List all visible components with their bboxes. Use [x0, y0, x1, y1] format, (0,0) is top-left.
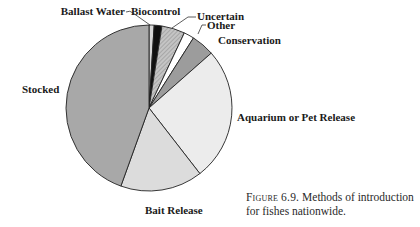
- figure-number: Figure 6.9.: [246, 191, 299, 203]
- figure-caption: Figure 6.9. Methods of introduction for …: [246, 190, 420, 218]
- label-conservation: Conservation: [218, 34, 281, 46]
- leader-uncertain: [172, 17, 196, 28]
- pie-slices: [66, 25, 232, 191]
- label-stocked: Stocked: [22, 83, 59, 95]
- label-biocontrol: Biocontrol: [131, 5, 180, 17]
- label-bait-release: Bait Release: [145, 204, 203, 216]
- leader-other: [198, 25, 206, 34]
- label-other: Other: [207, 19, 235, 31]
- pie-chart-figure: Ballast WaterBiocontrolUncertainOtherCon…: [0, 0, 420, 227]
- label-aquarium-or-pet-release: Aquarium or Pet Release: [237, 111, 355, 123]
- label-ballast-water: Ballast Water: [61, 5, 125, 17]
